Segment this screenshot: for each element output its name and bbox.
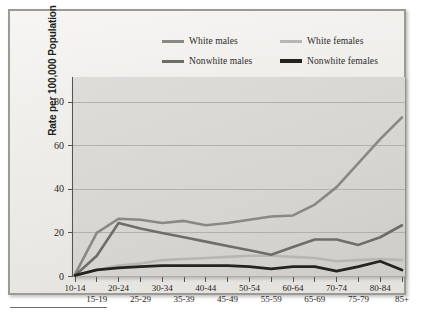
x-tick-label-20-24: 20-24	[104, 283, 134, 293]
legend-entry-nonwhite-males: Nonwhite males	[162, 51, 280, 71]
line-chart-svg	[72, 77, 405, 277]
series-line-white-males	[75, 117, 402, 274]
figure-container: White males White females Nonwhite males…	[0, 0, 424, 321]
legend-swatch-white-females	[280, 40, 302, 43]
y-axis-title: Rate per 100,000 Population	[47, 0, 58, 151]
legend-row-1: White males White females	[162, 31, 406, 51]
legend-swatch-nonwhite-females	[280, 59, 302, 63]
x-tick-label-50-54: 50-54	[234, 283, 264, 293]
legend-row-2: Nonwhite males Nonwhite females	[162, 51, 406, 71]
legend-label-nonwhite-females: Nonwhite females	[307, 56, 378, 66]
x-tick-label-25-29: 25-29	[125, 294, 155, 304]
legend-swatch-white-males	[162, 40, 184, 43]
x-tick-label-40-44: 40-44	[191, 283, 221, 293]
x-tick-label-85+: 85+	[387, 294, 417, 304]
legend-entry-nonwhite-females: Nonwhite females	[280, 51, 378, 71]
legend-label-nonwhite-males: Nonwhite males	[189, 56, 252, 66]
x-tick-label-70-74: 70-74	[322, 283, 352, 293]
y-tick-label-0: 0	[38, 271, 64, 282]
x-tick-label-65-69: 65-69	[300, 294, 330, 304]
plot-area	[72, 77, 405, 277]
x-tick-label-10-14: 10-14	[60, 283, 90, 293]
x-tick-label-80-84: 80-84	[365, 283, 395, 293]
legend-label-white-males: White males	[189, 36, 238, 46]
y-tick-label-80: 80	[38, 96, 64, 107]
y-tick-label-40: 40	[38, 183, 64, 194]
x-tick-label-30-34: 30-34	[147, 283, 177, 293]
series-line-nonwhite-females	[75, 261, 402, 275]
legend-label-white-females: White females	[307, 36, 363, 46]
y-tick-label-60: 60	[38, 140, 64, 151]
chart-legend: White males White females Nonwhite males…	[162, 31, 406, 71]
x-tick-label-15-19: 15-19	[82, 294, 112, 304]
legend-swatch-nonwhite-males	[162, 60, 184, 63]
footer-rule	[10, 307, 107, 308]
x-tick-label-45-49: 45-49	[213, 294, 243, 304]
x-tick-label-35-39: 35-39	[169, 294, 199, 304]
legend-entry-white-males: White males	[162, 31, 280, 51]
y-tick-label-20: 20	[38, 227, 64, 238]
x-tick-label-55-59: 55-59	[256, 294, 286, 304]
x-tick-label-75-79: 75-79	[343, 294, 373, 304]
x-tick-label-60-64: 60-64	[278, 283, 308, 293]
chart-panel: White males White females Nonwhite males…	[8, 9, 406, 295]
legend-entry-white-females: White females	[280, 31, 363, 51]
